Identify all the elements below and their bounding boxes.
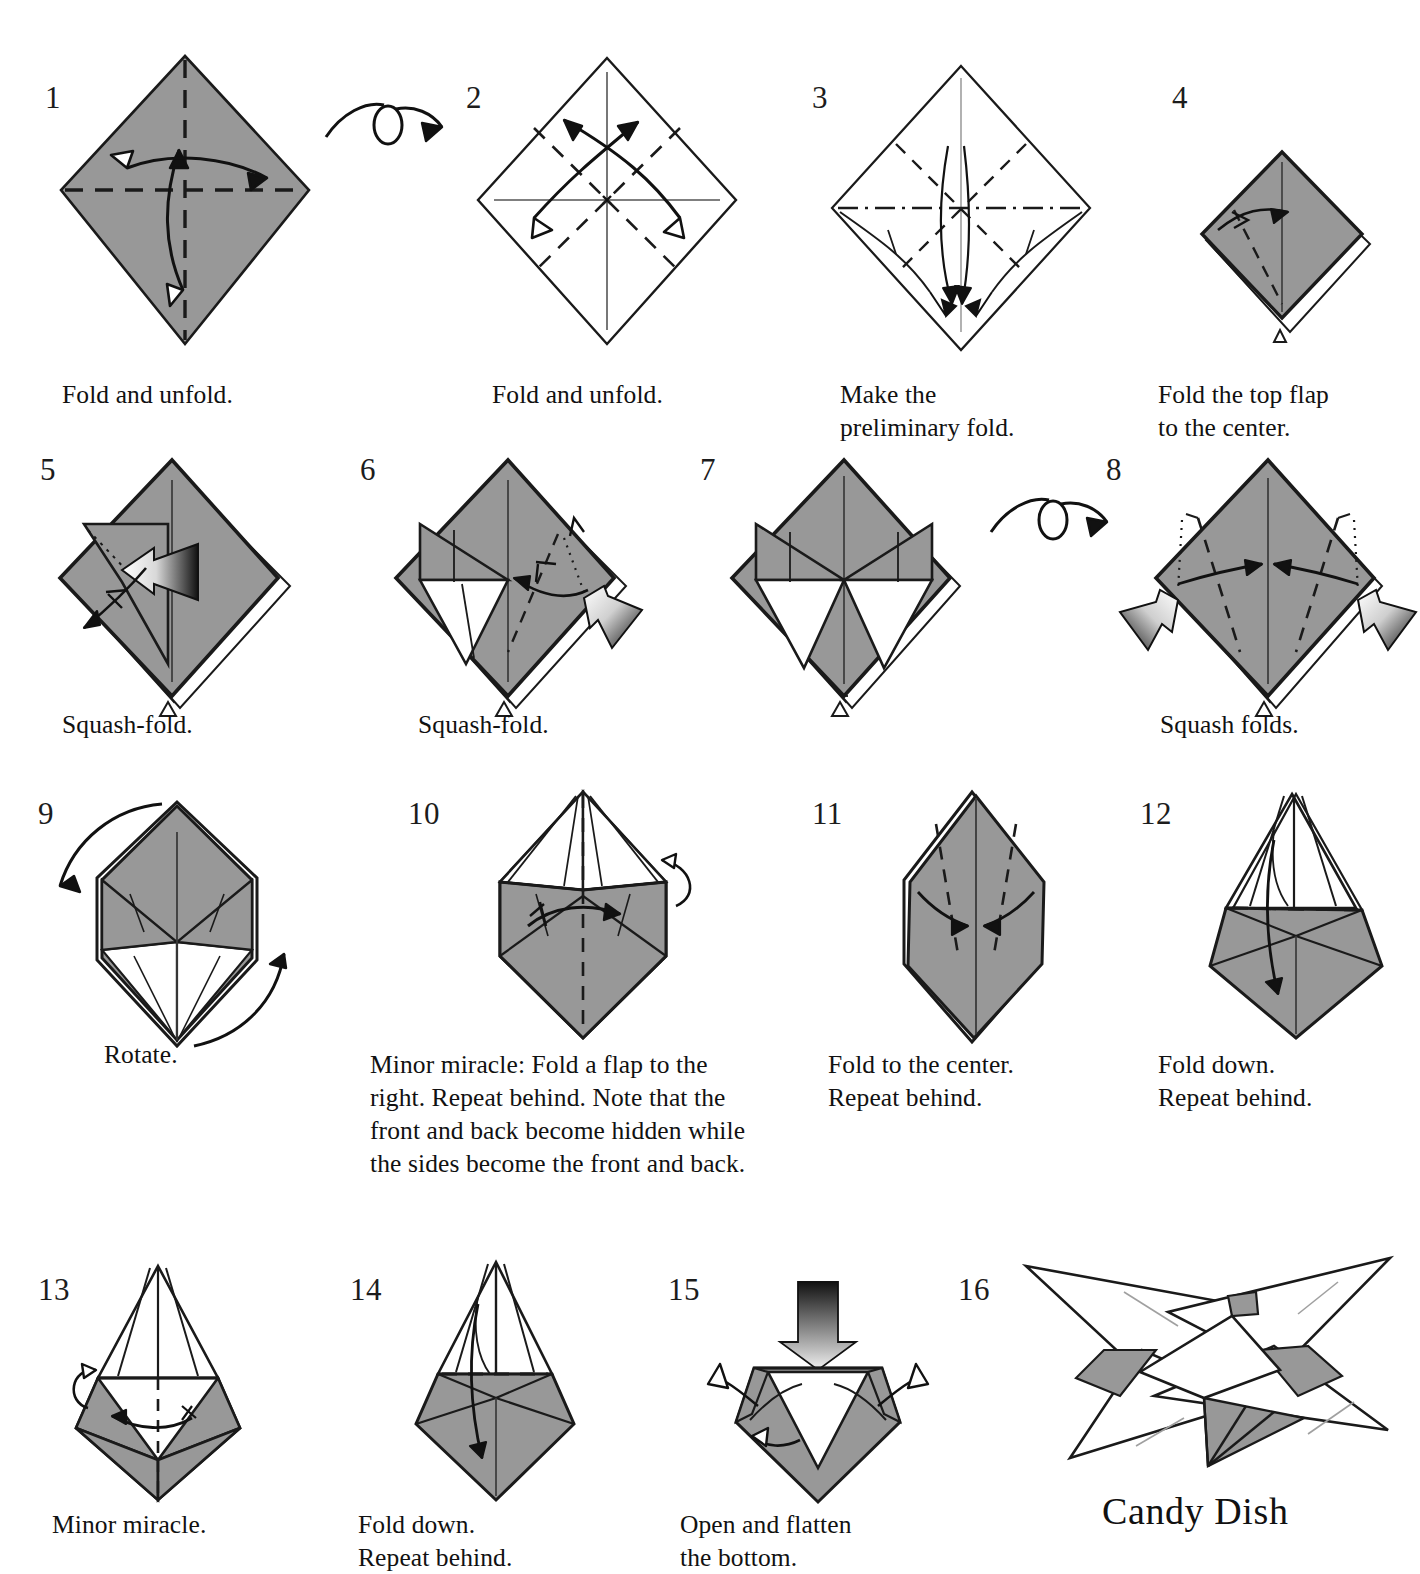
step-number: 12 <box>1140 798 1172 829</box>
caption-step-11: Fold to the center. Repeat behind. <box>828 1048 1014 1114</box>
step-3: 3 <box>790 40 1120 440</box>
figure-step-11 <box>850 786 1100 1056</box>
step-number: 4 <box>1172 82 1188 113</box>
step-4: 4 Fold the top flap to the center. <box>1130 40 1410 440</box>
step-number: 14 <box>350 1274 382 1305</box>
step-number: 11 <box>812 798 843 829</box>
step-6: 6 <box>350 440 700 760</box>
caption-step-13: Minor miracle. <box>52 1508 206 1541</box>
caption-step-1: Fold and unfold. <box>62 378 233 411</box>
figure-step-13 <box>40 1260 280 1510</box>
step-14: 14 Fold down. Repeat behind. <box>330 1250 660 1560</box>
caption-step-14: Fold down. Repeat behind. <box>358 1508 512 1574</box>
figure-step-9 <box>22 790 322 1060</box>
caption-step-3: Make the preliminary fold. <box>840 378 1015 444</box>
figure-step-2 <box>472 52 742 352</box>
caption-step-9: Rotate. <box>104 1038 178 1071</box>
figure-step-7 <box>704 452 984 722</box>
figure-step-12 <box>1186 786 1406 1046</box>
figure-step-4 <box>1172 144 1392 354</box>
figure-step-8 <box>1120 452 1420 722</box>
step-10: 10 <box>350 770 770 1230</box>
caption-step-12: Fold down. Repeat behind. <box>1158 1048 1312 1114</box>
step-12: 12 <box>1120 770 1402 1230</box>
caption-step-4: Fold the top flap to the center. <box>1158 378 1329 444</box>
step-15: 15 <box>650 1250 990 1560</box>
figure-step-1 <box>55 50 315 350</box>
caption-step-8: Squash folds. <box>1160 708 1299 741</box>
step-2: 2 Fold and unfold. <box>430 40 760 430</box>
caption-step-5: Squash-fold. <box>62 708 193 741</box>
step-5: 5 <box>0 440 350 760</box>
step-8: 8 <box>1040 440 1402 760</box>
figure-step-14 <box>382 1258 612 1508</box>
step-11: 11 Fold to the center. Repeat behind. <box>790 770 1120 1230</box>
figure-step-3 <box>826 62 1096 352</box>
step-1: 1 Fold and unfold. <box>0 40 350 430</box>
figure-step-10 <box>448 786 728 1056</box>
figure-step-15 <box>690 1264 940 1514</box>
step-16: 16 <box>940 1250 1402 1560</box>
caption-step-15: Open and flatten the bottom. <box>680 1508 852 1574</box>
step-13: 13 <box>0 1250 350 1560</box>
figure-step-16-finished-model <box>1008 1250 1408 1510</box>
caption-step-10: Minor miracle: Fold a flap to the right.… <box>370 1048 766 1180</box>
step-number: 10 <box>408 798 440 829</box>
step-number: 16 <box>958 1274 990 1305</box>
model-name-label: Candy Dish <box>1102 1490 1289 1532</box>
figure-step-5 <box>22 452 322 722</box>
step-9: 9 <box>0 770 350 1230</box>
caption-step-6: Squash-fold. <box>418 708 549 741</box>
figure-step-6 <box>358 452 668 722</box>
caption-step-2: Fold and unfold. <box>492 378 663 411</box>
